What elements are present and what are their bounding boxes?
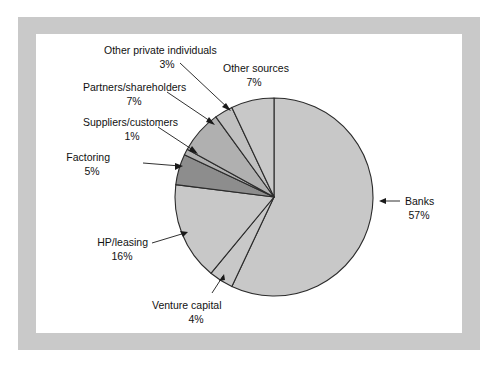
leader-hp-leasing bbox=[152, 233, 185, 243]
value-hp-leasing: 16% bbox=[111, 250, 132, 262]
leader-other-private-individuals bbox=[180, 63, 229, 109]
value-banks: 57% bbox=[408, 209, 429, 221]
leader-suppliers-customers bbox=[158, 127, 196, 152]
label-venture-capital: Venture capital bbox=[152, 299, 221, 311]
value-suppliers-customers: 1% bbox=[124, 130, 139, 142]
figure-container: Other private individuals 3% Other sourc… bbox=[0, 0, 496, 365]
label-suppliers-customers: Suppliers/customers bbox=[83, 116, 178, 128]
arrowhead-banks bbox=[379, 198, 386, 204]
label-banks: Banks bbox=[405, 195, 434, 207]
value-partners-shareholders: 7% bbox=[126, 95, 141, 107]
label-partners-shareholders: Partners/shareholders bbox=[83, 81, 186, 93]
value-venture-capital: 4% bbox=[188, 313, 203, 325]
value-other-sources: 7% bbox=[246, 76, 261, 88]
label-factoring: Factoring bbox=[66, 151, 110, 163]
label-other-sources: Other sources bbox=[223, 62, 289, 74]
label-other-private-individuals: Other private individuals bbox=[104, 44, 217, 56]
leader-factoring bbox=[143, 163, 180, 166]
label-hp-leasing: HP/leasing bbox=[97, 236, 148, 248]
pie-slice-group bbox=[175, 98, 373, 296]
pie-chart: Other private individuals 3% Other sourc… bbox=[0, 0, 496, 365]
value-other-private-individuals: 3% bbox=[159, 58, 174, 70]
value-factoring: 5% bbox=[84, 165, 99, 177]
